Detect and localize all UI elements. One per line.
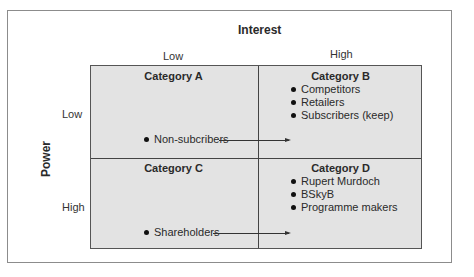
bullet-icon — [291, 179, 296, 184]
category-c-title: Category C — [91, 162, 256, 174]
power-interest-grid: Category A Category B Category C Categor… — [90, 65, 422, 249]
y-axis-high-label: High — [62, 201, 85, 213]
category-a-title: Category A — [91, 70, 256, 82]
y-axis-title: Power — [39, 141, 53, 177]
list-item: Non-subcribers — [144, 133, 229, 145]
category-d-title: Category D — [258, 162, 423, 174]
bullet-icon — [291, 192, 296, 197]
list-item: Retailers — [291, 96, 344, 108]
list-item: Competitors — [291, 83, 360, 95]
x-axis-high-label: High — [330, 48, 353, 60]
bullet-icon — [144, 137, 149, 142]
list-item: Programme makers — [291, 201, 398, 213]
category-b-title: Category B — [258, 70, 423, 82]
list-item: Rupert Murdoch — [291, 175, 380, 187]
list-item: BSkyB — [291, 188, 334, 200]
arrow-icon — [219, 140, 289, 141]
vertical-divider — [258, 66, 259, 248]
horizontal-divider — [91, 158, 421, 159]
bullet-icon — [291, 100, 296, 105]
bullet-icon — [144, 230, 149, 235]
bullet-icon — [291, 113, 296, 118]
list-item: Shareholders — [144, 226, 219, 238]
x-axis-low-label: Low — [163, 50, 183, 62]
list-item: Subscribers (keep) — [291, 109, 393, 121]
y-axis-low-label: Low — [62, 108, 82, 120]
bullet-icon — [291, 205, 296, 210]
x-axis-title: Interest — [238, 23, 281, 37]
arrow-icon — [213, 233, 289, 234]
bullet-icon — [291, 87, 296, 92]
